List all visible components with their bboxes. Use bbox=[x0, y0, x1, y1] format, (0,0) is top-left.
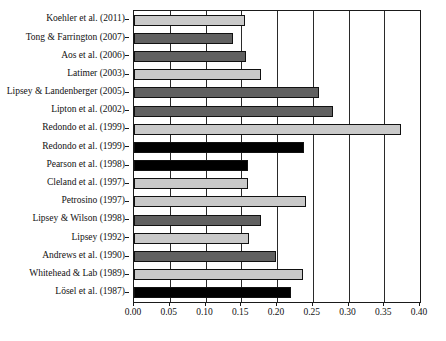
bar-row bbox=[134, 11, 420, 29]
x-axis-tick bbox=[348, 302, 349, 306]
y-axis-label-row: Andrews et al. (1990) bbox=[0, 246, 129, 264]
bar-row bbox=[134, 66, 420, 84]
y-axis-label-row: Lipsey & Wilson (1998) bbox=[0, 210, 129, 228]
bar bbox=[134, 233, 249, 244]
y-axis-label-row: Tong & Farrington (2007) bbox=[0, 28, 129, 46]
bar bbox=[134, 69, 261, 80]
y-axis-label-row: Pearson et al. (1998) bbox=[0, 156, 129, 174]
bar bbox=[134, 33, 233, 44]
bar bbox=[134, 251, 276, 262]
y-axis-tick bbox=[125, 37, 129, 38]
y-axis-tick bbox=[125, 19, 129, 20]
bar bbox=[134, 178, 248, 189]
y-axis-label: Petrosino (1997) bbox=[61, 196, 129, 206]
bar-row bbox=[134, 102, 420, 120]
x-axis-tick bbox=[312, 302, 313, 306]
bar bbox=[134, 51, 246, 62]
bar bbox=[134, 124, 401, 135]
x-axis-tick-label: 0.05 bbox=[160, 308, 177, 318]
x-axis-tick-label: 0.15 bbox=[232, 308, 249, 318]
y-axis-tick bbox=[125, 110, 129, 111]
y-axis-tick bbox=[125, 274, 129, 275]
y-axis-label: Tong & Farrington (2007) bbox=[26, 33, 129, 43]
y-axis-label: Lipsey (1992) bbox=[71, 233, 129, 243]
bar-row bbox=[134, 84, 420, 102]
y-axis-label-row: Koehler et al. (2011) bbox=[0, 10, 129, 28]
y-axis-label-row: Aos et al. (2006) bbox=[0, 46, 129, 64]
y-axis-tick bbox=[125, 128, 129, 129]
y-axis-tick bbox=[125, 219, 129, 220]
x-axis-tick-label: 0.25 bbox=[303, 308, 320, 318]
y-axis-tick bbox=[125, 146, 129, 147]
y-axis-label: Lipsey & Landenberger (2005) bbox=[7, 87, 129, 97]
bar-chart: Koehler et al. (2011)Tong & Farrington (… bbox=[0, 0, 446, 341]
y-axis-label: Aos et al. (2006) bbox=[61, 51, 129, 61]
y-axis-tick bbox=[125, 183, 129, 184]
y-axis-label: Andrews et al. (1990) bbox=[42, 251, 129, 261]
y-axis-label: Lipton et al. (2002) bbox=[51, 105, 129, 115]
y-axis-tick bbox=[125, 201, 129, 202]
y-axis-tick bbox=[125, 237, 129, 238]
y-axis-label-row: Latimer (2003) bbox=[0, 65, 129, 83]
bar-row bbox=[134, 175, 420, 193]
y-axis-label-row: Petrosino (1997) bbox=[0, 192, 129, 210]
y-axis-label-row: Lipton et al. (2002) bbox=[0, 101, 129, 119]
y-axis-label: Pearson et al. (1998) bbox=[46, 160, 129, 170]
bar-rows bbox=[134, 11, 420, 302]
y-axis-tick bbox=[125, 74, 129, 75]
y-axis-label-row: Whitehead & Lab (1989) bbox=[0, 265, 129, 283]
x-axis-tick-label: 0.30 bbox=[339, 308, 356, 318]
x-axis-tick-label: 0.35 bbox=[375, 308, 392, 318]
x-axis-tick bbox=[383, 302, 384, 306]
y-axis-label: Whitehead & Lab (1989) bbox=[29, 269, 129, 279]
bar-row bbox=[134, 247, 420, 265]
bar bbox=[134, 215, 261, 226]
x-axis-tick-label: 0.00 bbox=[125, 308, 142, 318]
y-axis-label-row: Cleland et al. (1997) bbox=[0, 174, 129, 192]
y-axis-labels: Koehler et al. (2011)Tong & Farrington (… bbox=[0, 10, 129, 301]
y-axis-label-row: Lipsey & Landenberger (2005) bbox=[0, 83, 129, 101]
x-axis-tick-label: 0.10 bbox=[196, 308, 213, 318]
bar bbox=[134, 269, 303, 280]
y-axis-label: Lipsey & Wilson (1998) bbox=[32, 214, 129, 224]
x-axis-tick-label: 0.40 bbox=[411, 308, 428, 318]
bar-row bbox=[134, 47, 420, 65]
bar bbox=[134, 142, 304, 153]
bar bbox=[134, 160, 248, 171]
y-axis-label-row: Lipsey (1992) bbox=[0, 228, 129, 246]
y-axis-label-row: Lösel et al. (1987) bbox=[0, 283, 129, 301]
y-axis-label-row: Redondo et al. (1999) bbox=[0, 137, 129, 155]
y-axis-tick bbox=[125, 165, 129, 166]
bar-row bbox=[134, 29, 420, 47]
bar-row bbox=[134, 229, 420, 247]
x-axis: 0.000.050.100.150.200.250.300.350.40 bbox=[133, 302, 421, 332]
bar-row bbox=[134, 284, 420, 302]
y-axis-tick bbox=[125, 256, 129, 257]
x-axis-tick bbox=[276, 302, 277, 306]
x-axis-tick bbox=[240, 302, 241, 306]
y-axis-label: Redondo et al. (1999) bbox=[42, 142, 129, 152]
y-axis-label: Latimer (2003) bbox=[67, 69, 129, 79]
x-axis-tick bbox=[133, 302, 134, 306]
y-axis-tick bbox=[125, 292, 129, 293]
bar-row bbox=[134, 211, 420, 229]
bar bbox=[134, 196, 306, 207]
x-axis-tick bbox=[169, 302, 170, 306]
bar bbox=[134, 15, 245, 26]
y-axis-tick bbox=[125, 92, 129, 93]
y-axis-label: Koehler et al. (2011) bbox=[46, 14, 129, 24]
bar bbox=[134, 287, 291, 298]
bar-row bbox=[134, 138, 420, 156]
x-axis-tick bbox=[205, 302, 206, 306]
bar-row bbox=[134, 157, 420, 175]
y-axis-label: Lösel et al. (1987) bbox=[55, 287, 129, 297]
bar-row bbox=[134, 266, 420, 284]
bar bbox=[134, 87, 319, 98]
y-axis-tick bbox=[125, 55, 129, 56]
bar bbox=[134, 106, 333, 117]
bar-row bbox=[134, 193, 420, 211]
y-axis-label: Redondo et al. (1999) bbox=[42, 123, 129, 133]
bar-row bbox=[134, 120, 420, 138]
x-axis-tick bbox=[419, 302, 420, 306]
plot-area bbox=[133, 10, 421, 303]
